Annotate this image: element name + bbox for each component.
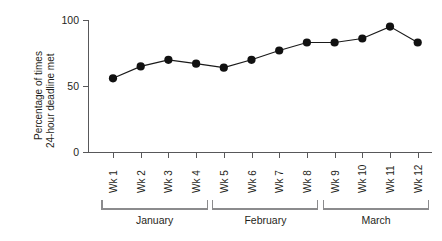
x-tick-label: Wk 6 bbox=[247, 170, 258, 193]
x-tick-label: Wk 8 bbox=[302, 170, 313, 193]
group-label: March bbox=[362, 214, 391, 226]
series-points bbox=[109, 23, 422, 83]
group-brackets bbox=[102, 200, 429, 209]
data-point bbox=[358, 34, 366, 42]
data-point bbox=[331, 38, 339, 46]
group-label: February bbox=[244, 214, 287, 226]
data-point bbox=[414, 38, 422, 46]
y-axis-ticks: 100 50 0 bbox=[61, 14, 88, 158]
x-tick-label: Wk 4 bbox=[191, 170, 202, 193]
data-point bbox=[303, 38, 311, 46]
group-bracket bbox=[324, 200, 429, 209]
y-axis-title: Percentage of times 24-hour deadline met bbox=[33, 51, 56, 148]
x-tick-label: Wk 11 bbox=[385, 165, 396, 193]
data-point bbox=[386, 23, 394, 31]
data-point bbox=[192, 60, 200, 68]
x-tick-label: Wk 10 bbox=[357, 164, 368, 193]
group-bracket bbox=[102, 200, 207, 209]
line-chart: Percentage of times 24-hour deadline met… bbox=[0, 0, 442, 241]
chart-canvas: Percentage of times 24-hour deadline met… bbox=[0, 0, 442, 241]
x-axis-ticks bbox=[114, 153, 419, 159]
y-tick-label-50: 50 bbox=[67, 80, 79, 92]
x-tick-label: Wk 3 bbox=[163, 170, 174, 193]
x-tick-label: Wk 1 bbox=[108, 170, 119, 193]
y-axis-title-line2: 24-hour deadline met bbox=[45, 53, 56, 148]
data-point bbox=[275, 46, 283, 54]
x-axis-tick-labels: Wk 1Wk 2Wk 3Wk 4Wk 5Wk 6Wk 7Wk 8Wk 9Wk 1… bbox=[108, 164, 424, 193]
x-tick-label: Wk 7 bbox=[274, 170, 285, 193]
data-point bbox=[109, 74, 117, 82]
y-tick-label-0: 0 bbox=[73, 146, 79, 158]
data-series bbox=[109, 23, 422, 83]
x-tick-label: Wk 12 bbox=[413, 164, 424, 193]
data-point bbox=[137, 62, 145, 70]
y-axis-title-line1: Percentage of times bbox=[33, 51, 44, 140]
data-point bbox=[247, 56, 255, 64]
series-line bbox=[113, 27, 418, 79]
group-bracket bbox=[213, 200, 318, 209]
group-labels: JanuaryFebruaryMarch bbox=[136, 214, 391, 226]
x-tick-label: Wk 9 bbox=[330, 170, 341, 193]
x-tick-label: Wk 2 bbox=[136, 170, 147, 193]
x-tick-label: Wk 5 bbox=[219, 170, 230, 193]
data-point bbox=[164, 56, 172, 64]
y-tick-label-100: 100 bbox=[61, 14, 79, 26]
group-label: January bbox=[136, 214, 174, 226]
data-point bbox=[220, 64, 228, 72]
